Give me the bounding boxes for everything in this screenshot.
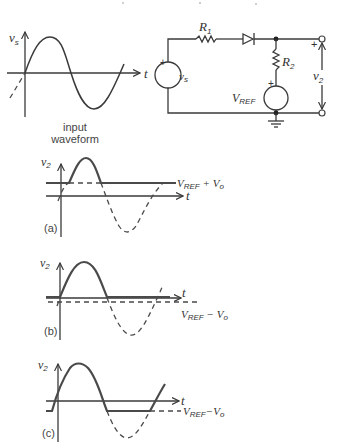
t-label-b: t bbox=[182, 285, 186, 300]
output-panel-b: v2 t VREF − Vo (b) bbox=[40, 256, 228, 340]
v2-label-c: v2 bbox=[38, 358, 48, 373]
output-terminal-bottom bbox=[319, 110, 325, 116]
input-reference-dashed-b bbox=[107, 285, 163, 335]
vs-axis-label: vs bbox=[9, 30, 19, 47]
input-caption-line1: input bbox=[63, 121, 87, 133]
resistor-r1-icon bbox=[196, 36, 216, 42]
v2-plus: + bbox=[311, 38, 317, 50]
input-caption-line2: waveform bbox=[50, 133, 99, 145]
panel-tag-b: (b) bbox=[44, 325, 57, 337]
v2-label-b: v2 bbox=[40, 256, 50, 271]
clipped-output-a bbox=[46, 158, 176, 183]
level-label-b: VREF − Vo bbox=[181, 308, 228, 322]
input-waveform-plot: vs t input waveform bbox=[7, 30, 148, 145]
level-label-a: VREF + Vo bbox=[177, 177, 224, 191]
v2-label-a: v2 bbox=[41, 155, 51, 170]
ground-icon bbox=[268, 113, 284, 127]
output-panel-a: v2 t VREF + Vo (a) bbox=[41, 155, 224, 237]
vref-label: VREF bbox=[232, 91, 256, 106]
vs-plus: + bbox=[160, 57, 166, 68]
vref-source-icon bbox=[264, 86, 288, 110]
output-panel-c: v2 t VREF−Vo (c) bbox=[38, 358, 225, 442]
input-sine-dashed-lead bbox=[10, 73, 25, 98]
r1-label: R1 bbox=[198, 19, 211, 36]
v2-output-label: v2 bbox=[313, 68, 324, 85]
input-reference-dashed-a bbox=[58, 183, 163, 232]
clipped-output-c bbox=[46, 364, 165, 412]
level-label-c: VREF−Vo bbox=[183, 405, 225, 419]
wire-left-bottom bbox=[168, 88, 276, 113]
cropped-caption-fragment bbox=[122, 2, 257, 5]
wire-left-top bbox=[168, 39, 196, 62]
clipper-circuit: + vs R1 R2 + VREF bbox=[155, 19, 325, 127]
diode-icon bbox=[243, 33, 254, 45]
input-reference-dashed-c bbox=[107, 411, 150, 438]
panel-tag-c: (c) bbox=[42, 427, 55, 439]
clipped-output-b bbox=[46, 262, 170, 297]
t-axis-label: t bbox=[144, 66, 148, 81]
diode-clipper-figure: vs t input waveform + vs R1 R2 + VREF bbox=[0, 0, 343, 442]
panel-tag-a: (a) bbox=[44, 222, 57, 234]
output-terminal-top bbox=[319, 36, 325, 42]
resistor-r2-icon bbox=[273, 49, 279, 70]
r2-label: R2 bbox=[281, 54, 295, 71]
vs-label: vs bbox=[179, 70, 188, 84]
source-vs-icon bbox=[155, 62, 181, 88]
vref-plus: + bbox=[268, 78, 274, 89]
